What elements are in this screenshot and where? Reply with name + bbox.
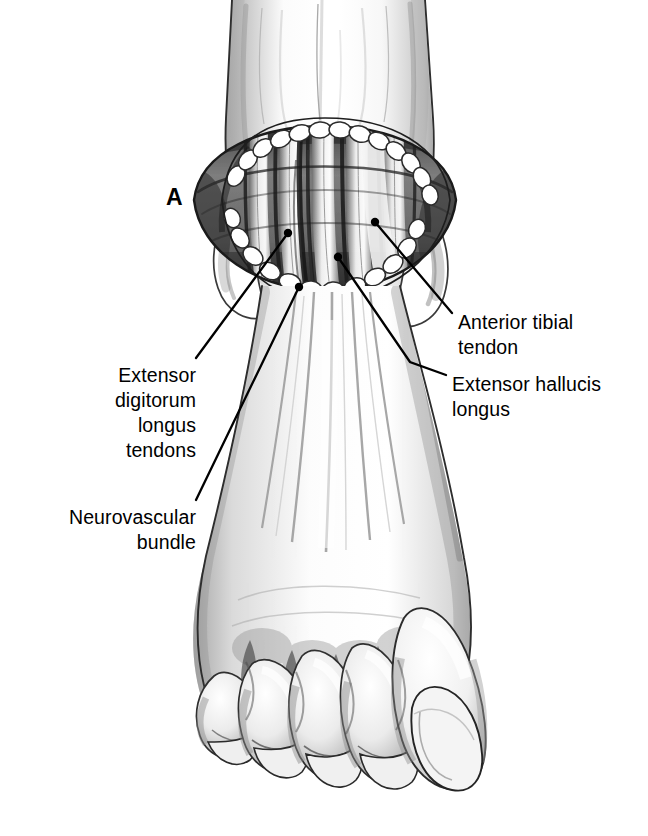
label-anterior-tibial-tendon[interactable]: Anterior tibial tendon (458, 310, 644, 360)
label-extensor-digitorum-longus-tendons[interactable]: Extensor digitorum longus tendons (36, 363, 196, 463)
label-extensor-hallucis-longus[interactable]: Extensor hallucis longus (452, 372, 648, 422)
label-neurovascular-bundle[interactable]: Neurovascular bundle (26, 505, 196, 555)
panel-letter-a: A (166, 184, 183, 211)
